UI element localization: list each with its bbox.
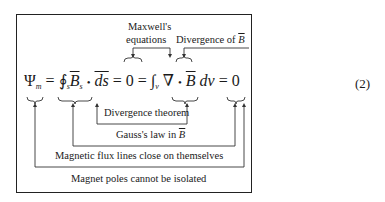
flux-lines-label: Magnetic flux lines close on themselves — [55, 151, 223, 162]
equation-number: (2) — [355, 77, 370, 90]
equals-sign: = — [138, 72, 147, 89]
dv: dv — [200, 72, 215, 89]
maxwell-label-line1: Maxwell's — [128, 22, 171, 33]
equation: Ψm = ∮sBs • ds = 0 = ∫v ∇ • B dv = 0 — [24, 73, 240, 89]
equals-sign: = — [113, 72, 122, 89]
zero: 0 — [126, 72, 134, 89]
contour-integral-symbol: ∮ — [59, 72, 67, 89]
psi-symbol: Ψ — [24, 72, 36, 89]
maxwell-label-line2: equations — [126, 35, 166, 46]
gauss-law-label: Gauss's law in B — [116, 130, 185, 141]
nabla-symbol: ∇ — [163, 72, 174, 89]
ds-vector: ds — [95, 72, 109, 89]
dot-operator: • — [178, 76, 182, 88]
equals-sign: = — [46, 72, 55, 89]
b-vector: B — [186, 72, 196, 89]
poles-label: Magnet poles cannot be isolated — [71, 174, 206, 185]
dot-operator: • — [87, 76, 91, 88]
divergence-theorem-label: Divergence theorem — [104, 108, 189, 119]
divergence-of-b-label: Divergence of B — [176, 35, 245, 46]
annotation-lines — [0, 0, 385, 202]
equals-sign: = — [219, 72, 228, 89]
zero: 0 — [232, 72, 240, 89]
b-vector: B — [70, 72, 80, 89]
